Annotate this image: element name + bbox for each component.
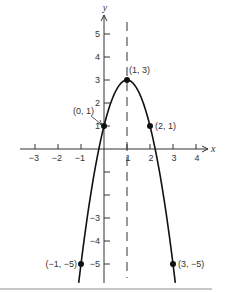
x-axis-label: x <box>210 143 216 154</box>
y-axis-label: y <box>102 2 108 13</box>
x-tick-label: 4 <box>194 153 199 163</box>
data-point-marker <box>147 123 153 129</box>
x-tick-label: −3 <box>29 153 39 163</box>
data-point-label: (0, 1) <box>73 106 94 116</box>
data-point-marker <box>124 77 130 83</box>
x-tick-label: −2 <box>52 153 62 163</box>
parabola-chart: −3−2−1123412345−3−4−5 (1, 3)(0, 1)(2, 1)… <box>0 0 227 292</box>
x-tick-label: 1 <box>125 153 130 163</box>
y-tick-label: 4 <box>95 52 100 62</box>
y-tick-label: 3 <box>95 75 100 85</box>
x-tick-label: 3 <box>171 153 176 163</box>
y-tick-label: −3 <box>90 213 100 223</box>
data-point-label: (3, −5) <box>178 259 204 269</box>
x-tick-label: 2 <box>148 153 153 163</box>
y-tick-label: 2 <box>95 98 100 108</box>
x-tick-label: −1 <box>75 153 85 163</box>
data-point-label: (2, 1) <box>155 121 176 131</box>
data-point-marker <box>78 261 84 267</box>
data-point-label: (−1, −5) <box>45 259 77 269</box>
data-point-label: (1, 3) <box>129 65 150 75</box>
y-tick-label: 5 <box>95 29 100 39</box>
y-tick-label: −4 <box>90 236 100 246</box>
y-tick-label: −5 <box>90 259 100 269</box>
labeled-points: (1, 3)(0, 1)(2, 1)(−1, −5)(3, −5) <box>45 65 204 269</box>
axes <box>20 15 208 283</box>
data-point-marker <box>170 261 176 267</box>
